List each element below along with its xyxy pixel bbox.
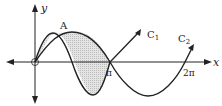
graph-canvas: y x A C1 C2 π 2π (0, 0, 222, 106)
tick-pi-label: π (106, 68, 112, 78)
x-axis-arrow-right-icon (204, 59, 212, 65)
c2-label: C2 (178, 33, 190, 46)
y-axis-arrow-up-icon (32, 4, 38, 12)
x-axis-arrow-left-icon (6, 59, 14, 65)
c1-label: C1 (147, 29, 159, 42)
tick-2pi-label: 2π (183, 68, 195, 78)
point-a-label: A (59, 20, 68, 31)
y-axis-arrow-down-icon (32, 96, 38, 104)
x-axis-label: x (213, 56, 220, 69)
y-axis-label: y (40, 2, 48, 15)
curve-c2 (35, 32, 192, 96)
